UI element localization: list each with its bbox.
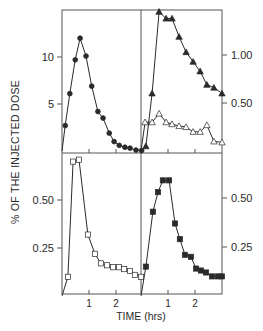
y-axis-label: % OF THE INJECTED DOSE (9, 80, 21, 224)
figure: 5100.501.00120.250.50120.250.50 (0, 0, 263, 331)
svg-text:5: 5 (48, 98, 54, 110)
svg-text:0.50: 0.50 (33, 194, 54, 206)
series-open-triangles (141, 110, 225, 151)
svg-text:0.50: 0.50 (231, 97, 252, 109)
svg-text:0.25: 0.25 (33, 242, 54, 254)
svg-text:1: 1 (86, 298, 92, 309)
axis-ticks (57, 55, 227, 294)
svg-text:0.50: 0.50 (231, 192, 252, 204)
tick-labels: 5100.501.00120.250.50120.250.50 (33, 49, 253, 309)
series-filled-diamonds (62, 36, 144, 153)
svg-text:1: 1 (165, 298, 171, 309)
svg-text:10: 10 (42, 51, 54, 63)
data-series (62, 9, 225, 296)
svg-text:0.25: 0.25 (231, 241, 252, 253)
series-filled-squares (141, 178, 225, 296)
svg-text:2: 2 (113, 298, 119, 309)
series-open-squares (62, 157, 144, 296)
x-axis-label: TIME (hrs) (116, 310, 166, 322)
svg-text:2: 2 (192, 298, 198, 309)
svg-text:1.00: 1.00 (231, 49, 252, 61)
